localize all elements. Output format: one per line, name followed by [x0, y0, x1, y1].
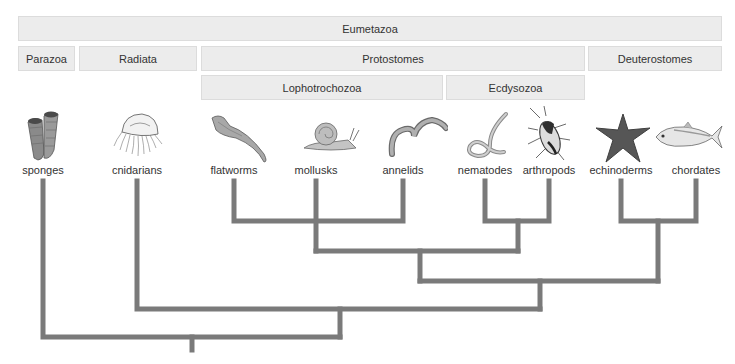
phylogenetic-tree: [0, 0, 735, 364]
branch-root: [43, 181, 340, 337]
branch-eumetazoa: [137, 181, 540, 309]
branch-ecdysozoa: [485, 181, 549, 221]
branch-deuterostomes: [621, 181, 696, 221]
